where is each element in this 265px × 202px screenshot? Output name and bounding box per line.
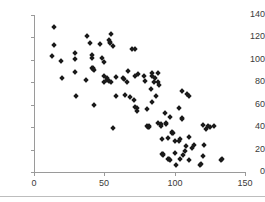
data-point (124, 79, 130, 85)
data-point (51, 24, 57, 30)
data-point (170, 130, 176, 136)
y-tick-mark (31, 60, 34, 61)
data-point (83, 77, 89, 83)
plot-area (34, 15, 245, 172)
y-tick-label: 60 (237, 100, 265, 109)
data-point (132, 46, 138, 52)
data-point (220, 156, 226, 162)
data-point (176, 105, 182, 111)
y-tick-label: 0 (237, 167, 265, 176)
scatter-chart-figure: 020406080100120140 050100150 (0, 0, 265, 202)
data-point (186, 93, 192, 99)
y-tick-label: 100 (237, 55, 265, 64)
bottom-divider-rule (0, 196, 265, 197)
data-point (144, 106, 150, 112)
x-tick-mark (245, 173, 246, 176)
data-point (173, 162, 179, 168)
y-tick-label: 140 (237, 10, 265, 19)
x-tick-label: 0 (19, 179, 49, 188)
data-point (92, 67, 98, 73)
data-point (109, 79, 115, 85)
x-tick-label: 50 (89, 179, 119, 188)
data-point (51, 42, 57, 48)
data-point (73, 93, 79, 99)
data-point (165, 136, 171, 142)
data-point (58, 58, 64, 64)
y-tick-mark (31, 82, 34, 83)
y-tick-label: 40 (237, 122, 265, 131)
x-tick-label: 150 (230, 179, 260, 188)
data-point (200, 153, 206, 159)
data-point (85, 33, 91, 39)
y-axis-line (34, 15, 35, 173)
x-tick-mark (175, 173, 176, 176)
y-tick-mark (31, 15, 34, 16)
data-point (110, 44, 116, 50)
data-point (131, 97, 137, 103)
data-point (172, 150, 178, 156)
data-point (154, 93, 160, 99)
y-tick-label: 120 (237, 32, 265, 41)
data-point (110, 125, 116, 131)
data-point (148, 86, 154, 92)
x-tick-mark (104, 173, 105, 176)
x-axis-line (34, 172, 246, 173)
data-point (109, 31, 115, 37)
data-point (186, 134, 192, 140)
data-point (179, 116, 185, 122)
data-point (142, 78, 148, 84)
y-tick-mark (31, 105, 34, 106)
data-point (168, 157, 174, 163)
data-point (134, 109, 140, 115)
x-tick-label: 100 (160, 179, 190, 188)
data-point (186, 157, 192, 163)
y-tick-mark (31, 150, 34, 151)
data-point (201, 142, 207, 148)
x-tick-mark (34, 173, 35, 176)
y-tick-mark (31, 127, 34, 128)
data-point (92, 102, 98, 108)
data-point (49, 54, 55, 60)
data-point (192, 142, 198, 148)
y-tick-mark (31, 37, 34, 38)
data-point (156, 82, 162, 88)
data-point (72, 69, 78, 75)
y-tick-label: 80 (237, 77, 265, 86)
data-point (59, 75, 65, 81)
data-point (168, 114, 174, 120)
y-tick-label: 20 (237, 145, 265, 154)
data-point (162, 110, 168, 116)
data-point (113, 93, 119, 99)
data-point (149, 100, 155, 106)
data-point (101, 59, 107, 65)
data-point (199, 161, 205, 167)
data-point (125, 68, 131, 74)
data-point (87, 40, 93, 46)
data-point (113, 74, 119, 80)
data-point (72, 56, 78, 62)
data-point (97, 41, 103, 47)
